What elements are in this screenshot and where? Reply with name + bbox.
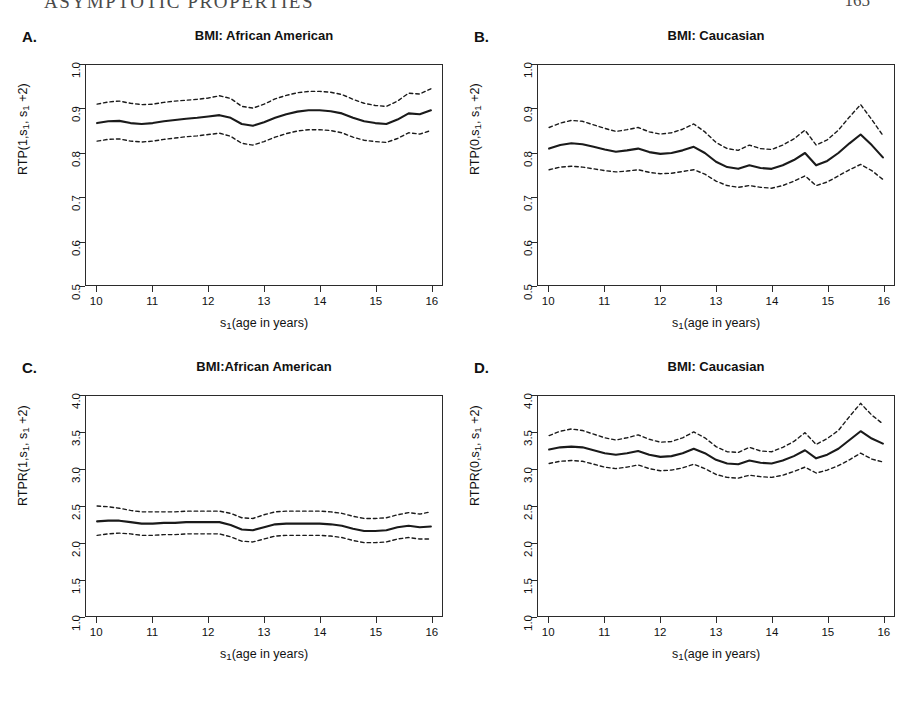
- panel-c-title: BMI:African American: [85, 359, 443, 374]
- x-tick-mark: [320, 286, 321, 292]
- x-tick-label: 14: [305, 626, 335, 638]
- y-tick-label: 1.5: [70, 578, 82, 594]
- x-tick-label: 10: [81, 626, 111, 638]
- x-tick-mark: [320, 617, 321, 623]
- x-tick-mark: [660, 617, 661, 623]
- x-tick-mark: [432, 617, 433, 623]
- y-tick-label: 2.0: [70, 541, 82, 557]
- x-tick-mark: [884, 617, 885, 623]
- y-tick-label: 0.9: [70, 106, 82, 122]
- x-tick-label: 10: [81, 295, 111, 307]
- panel-b-curves: [538, 65, 894, 285]
- x-tick-label: 14: [305, 295, 335, 307]
- x-tick-label: 15: [361, 626, 391, 638]
- x-tick-mark: [828, 286, 829, 292]
- y-tick-label: 2.5: [522, 504, 534, 520]
- y-tick-label: 0.5: [70, 284, 82, 300]
- panel-a-plot-area: [85, 64, 443, 286]
- x-tick-mark: [208, 617, 209, 623]
- curve-upper-confidence-band: [549, 105, 883, 151]
- panel-a: A. BMI: African American RTP(1,s1, s1 +2…: [0, 14, 452, 354]
- x-tick-mark: [264, 286, 265, 292]
- x-tick-label: 16: [869, 626, 899, 638]
- x-tick-mark: [772, 286, 773, 292]
- panel-a-title: BMI: African American: [85, 28, 443, 43]
- figure-four-panel: A. BMI: African American RTP(1,s1, s1 +2…: [0, 0, 904, 711]
- x-tick-label: 11: [589, 295, 619, 307]
- x-tick-label: 12: [645, 626, 675, 638]
- x-tick-mark: [604, 617, 605, 623]
- x-tick-mark: [884, 286, 885, 292]
- panel-d-title: BMI: Caucasian: [537, 359, 895, 374]
- y-tick-label: 0.8: [522, 151, 534, 167]
- x-tick-mark: [772, 617, 773, 623]
- panel-b-plot-area: [537, 64, 895, 286]
- x-tick-mark: [660, 286, 661, 292]
- y-tick-label: 1.0: [522, 62, 534, 78]
- x-tick-mark: [152, 617, 153, 623]
- x-tick-mark: [96, 617, 97, 623]
- panel-b-title: BMI: Caucasian: [537, 28, 895, 43]
- x-tick-label: 11: [589, 626, 619, 638]
- panel-d-curves: [538, 396, 894, 616]
- x-tick-label: 13: [249, 626, 279, 638]
- y-tick-label: 0.9: [522, 106, 534, 122]
- x-tick-mark: [716, 286, 717, 292]
- panel-b-x-axis-label: s1(age in years): [537, 316, 895, 331]
- curve-lower-confidence-band: [549, 164, 883, 188]
- y-tick-label: 4.0: [70, 393, 82, 409]
- y-tick-label: 1.0: [522, 615, 534, 631]
- x-tick-label: 15: [813, 295, 843, 307]
- curve-lower-confidence-band: [549, 453, 883, 478]
- panel-d-letter: D.: [474, 359, 489, 376]
- panel-c-curves: [86, 396, 442, 616]
- x-tick-mark: [716, 617, 717, 623]
- y-tick-label: 3.0: [70, 467, 82, 483]
- x-tick-label: 14: [757, 295, 787, 307]
- curve-lower-confidence-band: [97, 130, 431, 145]
- x-tick-label: 12: [193, 295, 223, 307]
- curve-estimate: [97, 110, 431, 125]
- x-tick-mark: [432, 286, 433, 292]
- y-tick-label: 3.5: [70, 430, 82, 446]
- x-tick-label: 10: [533, 626, 563, 638]
- y-tick-label: 1.0: [70, 62, 82, 78]
- x-tick-label: 14: [757, 626, 787, 638]
- x-tick-label: 16: [417, 295, 447, 307]
- curve-estimate: [97, 521, 431, 531]
- x-tick-label: 11: [137, 626, 167, 638]
- x-tick-label: 12: [193, 626, 223, 638]
- panel-c-x-axis-label: s1(age in years): [85, 647, 443, 662]
- y-tick-label: 2.5: [70, 504, 82, 520]
- x-tick-mark: [152, 286, 153, 292]
- panel-c-letter: C.: [22, 359, 37, 376]
- x-tick-mark: [264, 617, 265, 623]
- y-tick-label: 0.6: [70, 240, 82, 256]
- x-tick-label: 15: [361, 295, 391, 307]
- panel-c: C. BMI:African American RTPR(1,s1, s1 +2…: [0, 345, 452, 685]
- curve-estimate: [549, 135, 883, 169]
- y-tick-label: 3.5: [522, 430, 534, 446]
- curve-lower-confidence-band: [97, 533, 431, 543]
- x-tick-label: 16: [869, 295, 899, 307]
- y-tick-label: 4.0: [522, 393, 534, 409]
- x-tick-mark: [604, 286, 605, 292]
- y-tick-label: 0.5: [522, 284, 534, 300]
- panel-d-x-axis-label: s1(age in years): [537, 647, 895, 662]
- x-tick-mark: [548, 286, 549, 292]
- x-tick-mark: [376, 617, 377, 623]
- y-tick-label: 0.6: [522, 240, 534, 256]
- curve-upper-confidence-band: [97, 89, 431, 108]
- x-tick-label: 10: [533, 295, 563, 307]
- x-tick-mark: [828, 617, 829, 623]
- panel-a-y-axis-label: RTP(1,s1, s1 +2): [16, 83, 31, 175]
- y-tick-label: 2.0: [522, 541, 534, 557]
- panel-a-letter: A.: [22, 28, 37, 45]
- panel-a-curves: [86, 65, 442, 285]
- y-tick-label: 1.0: [70, 615, 82, 631]
- panel-b-letter: B.: [474, 28, 489, 45]
- x-tick-label: 13: [701, 626, 731, 638]
- y-tick-label: 0.8: [70, 151, 82, 167]
- x-tick-label: 13: [701, 295, 731, 307]
- y-tick-label: 3.0: [522, 467, 534, 483]
